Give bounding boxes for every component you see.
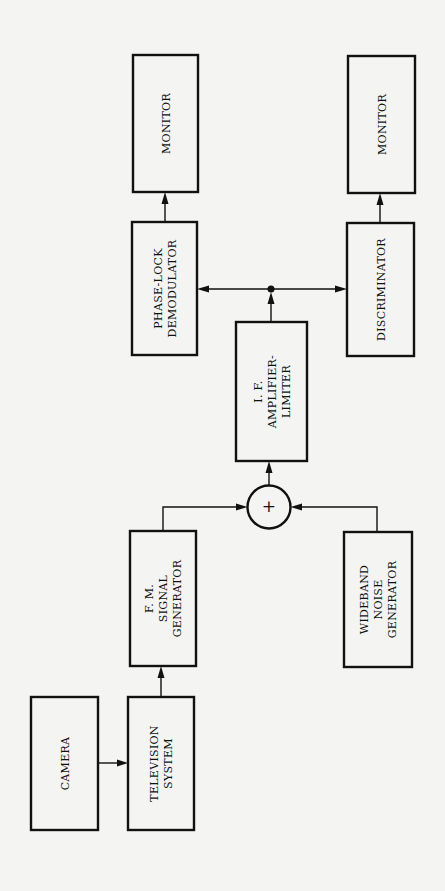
connector-if-to-junction [268,286,275,323]
noise-gen-label-line2: NOISE [372,579,385,619]
arrow-icon [377,193,384,205]
connector-junction-to-discriminator [271,286,347,293]
fm-gen-label-line1: F. M. [143,584,156,613]
monitor-1-label: MONITOR [160,93,173,154]
noise-gen-label-line3: GENERATOR [386,560,399,638]
if-amp-label-line1: I. F. [252,380,265,402]
block-diagram: MONITOR MONITOR PHASE-LOCK DEMODULATOR D… [0,0,445,891]
arrow-icon [291,504,303,511]
connector-noise-to-summer [291,504,378,533]
connector-fm-to-summer [163,504,248,532]
summing-junction: + [248,486,291,529]
if-amplifier-limiter-block: I. F. AMPLIFIER- LIMITER [236,322,307,461]
wideband-noise-generator-block: WIDEBAND NOISE GENERATOR [344,532,412,667]
connector-phase-lock-to-monitor-1 [162,192,169,222]
tv-system-label-line2: SYSTEM [162,738,175,789]
fm-gen-label-line2: SIGNAL [157,574,170,622]
monitor-2-block: MONITOR [348,56,415,193]
camera-label: CAMERA [59,736,72,790]
noise-gen-label-line1: WIDEBAND [358,565,371,634]
connector-camera-to-tv [98,760,128,767]
arrow-icon [268,292,275,304]
discriminator-block: DISCRIMINATOR [347,223,414,356]
connector-junction-to-phase-lock [197,286,271,293]
phase-lock-demodulator-block: PHASE-LOCK DEMODULATOR [132,222,197,355]
phase-lock-label-line2: DEMODULATOR [166,239,179,337]
plus-icon: + [262,496,277,516]
arrow-icon [197,286,209,293]
monitor-2-label: MONITOR [376,94,389,155]
television-system-block: TELEVISION SYSTEM [128,697,194,830]
if-amp-label-line3: LIMITER [280,365,293,418]
arrow-icon [117,760,128,767]
arrow-icon [236,504,248,511]
arrow-icon [162,192,169,204]
tv-system-label-line1: TELEVISION [148,725,161,802]
arrow-icon [158,666,165,678]
fm-signal-generator-block: F. M. SIGNAL GENERATOR [130,531,196,666]
arrow-icon [266,461,273,473]
fm-gen-label-line3: GENERATOR [171,559,184,637]
phase-lock-label-line1: PHASE-LOCK [152,248,165,329]
arrow-icon [335,286,347,293]
connector-summer-to-if [266,461,273,485]
discriminator-label: DISCRIMINATOR [375,238,388,341]
monitor-1-block: MONITOR [133,55,198,192]
camera-block: CAMERA [31,697,98,830]
if-amp-label-line2: AMPLIFIER- [266,355,279,429]
connector-discriminator-to-monitor-2 [377,193,384,223]
connector-tv-to-fm [158,666,165,697]
